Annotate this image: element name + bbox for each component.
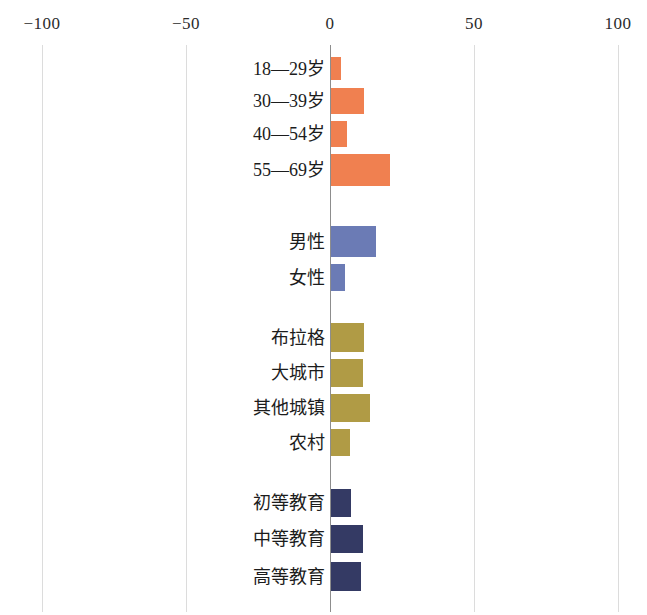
bar-category-label: 男性 [0, 230, 325, 254]
bar-category-label: 30—39岁 [0, 89, 325, 113]
x-tick-label: −50 [172, 14, 200, 34]
x-tick-label: −100 [23, 14, 60, 34]
bar-age [331, 121, 347, 147]
plot-area: −100−50050100 18—29岁30—39岁40—54岁55—69岁男性… [0, 0, 647, 615]
bar-settlement [331, 429, 350, 456]
x-tick-label: 0 [326, 14, 335, 34]
bar-education [331, 562, 361, 591]
bar-category-label: 18—29岁 [0, 57, 325, 81]
gridline-100 [618, 45, 619, 612]
bar-category-label: 农村 [0, 431, 325, 455]
bar-gender [331, 264, 345, 291]
bar-education [331, 525, 363, 553]
bar-chart: −100−50050100 18—29岁30—39岁40—54岁55—69岁男性… [0, 0, 647, 615]
bar-category-label: 40—54岁 [0, 122, 325, 146]
bar-education [331, 489, 351, 517]
bar-category-label: 55—69岁 [0, 158, 325, 182]
bar-category-label: 高等教育 [0, 565, 325, 589]
bar-category-label: 中等教育 [0, 527, 325, 551]
bar-category-label: 女性 [0, 266, 325, 290]
bar-age [331, 57, 341, 80]
bar-settlement [331, 323, 364, 352]
bar-category-label: 大城市 [0, 361, 325, 385]
bar-category-label: 初等教育 [0, 491, 325, 515]
bar-category-label: 布拉格 [0, 326, 325, 350]
bar-gender [331, 226, 376, 257]
bar-category-label: 其他城镇 [0, 396, 325, 420]
x-tick-label: 100 [605, 14, 632, 34]
bar-age [331, 154, 390, 186]
gridline-50 [474, 45, 475, 612]
bar-settlement [331, 359, 363, 387]
bar-age [331, 88, 364, 114]
x-tick-label: 50 [465, 14, 483, 34]
bar-settlement [331, 394, 370, 422]
